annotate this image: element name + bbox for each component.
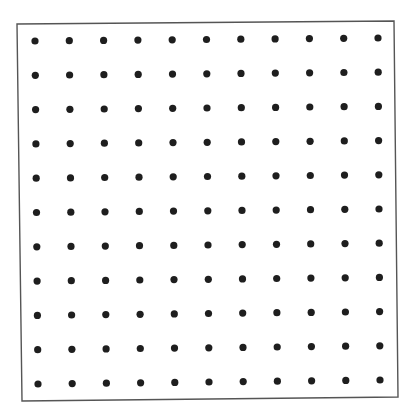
grid-dot [272,35,279,42]
grid-dot [203,70,210,77]
grid-dot [341,240,348,247]
grid-dot [103,345,110,352]
grid-dot [102,243,109,250]
grid-dot [342,308,349,315]
grid-dot [100,71,107,78]
grid-dot [306,103,313,110]
grid-dot [135,71,142,78]
grid-dot [170,242,177,249]
grid-dot [33,175,40,182]
grid-dot [238,207,245,214]
dot-grid-diagram [0,0,413,414]
grid-dot [237,70,244,77]
grid-dot [238,173,245,180]
grid-dot [137,345,144,352]
grid-dot [67,209,74,216]
grid-dot [204,241,211,248]
grid-dot [273,207,280,214]
grid-dot [375,171,382,178]
grid-dot [239,344,246,351]
grid-dot [307,172,314,179]
grid-dot [170,276,177,283]
grid-dot [69,380,76,387]
grid-dot [376,342,383,349]
grid-dot [204,207,211,214]
grid-dot [171,379,178,386]
grid-dot [102,277,109,284]
grid-dot [32,106,39,113]
grid-dot [376,274,383,281]
grid-dot [67,174,74,181]
grid-dot [308,309,315,316]
grid-dot [273,275,280,282]
grid-dot [376,308,383,315]
grid-dot [204,173,211,180]
grid-dot [34,312,41,319]
grid-dot [239,241,246,248]
grid-dot [169,36,176,43]
grid-dot [137,311,144,318]
grid-dot [100,37,107,44]
grid-dot [169,105,176,112]
grid-dot [32,72,39,79]
grid-dot [307,240,314,247]
grid-dot [170,208,177,215]
grid-dot [136,242,143,249]
grid-dot [375,137,382,144]
grid-dot [136,208,143,215]
grid-dot [273,309,280,316]
grid-dot [135,139,142,146]
grid-dot [170,173,177,180]
grid-dot [67,243,74,250]
grid-dot [102,311,109,318]
grid-dot [272,138,279,145]
grid-dot [341,137,348,144]
grid-dot [307,275,314,282]
grid-dot [33,209,40,216]
grid-dot [171,345,178,352]
grid-dot [169,71,176,78]
grid-dot [239,275,246,282]
dot-grid [31,34,383,387]
grid-dot [376,240,383,247]
grid-dot [340,35,347,42]
grid-dot [272,172,279,179]
grid-dot [169,139,176,146]
grid-dot [34,278,41,285]
grid-dot [307,206,314,213]
grid-dot [66,71,73,78]
grid-dot [306,69,313,76]
grid-dot [103,380,110,387]
grid-dot [101,208,108,215]
grid-dot [238,138,245,145]
grid-dot [274,343,281,350]
grid-dot [273,241,280,248]
grid-dot [68,346,75,353]
grid-dot [341,103,348,110]
grid-dot [205,378,212,385]
grid-dot [34,346,41,353]
grid-dot [66,106,73,113]
grid-dot [238,104,245,111]
grid-dot [67,140,74,147]
grid-dot [137,379,144,386]
grid-dot [374,34,381,41]
grid-dot [205,276,212,283]
grid-dot [203,36,210,43]
grid-dot [274,378,281,385]
grid-dot [68,311,75,318]
grid-dot [203,104,210,111]
grid-dot [239,310,246,317]
grid-dot [376,376,383,383]
grid-dot [134,37,141,44]
grid-dot [341,172,348,179]
grid-dot [205,310,212,317]
grid-dot [135,174,142,181]
grid-dot [375,69,382,76]
grid-dot [171,310,178,317]
grid-dot [101,105,108,112]
grid-dot [240,378,247,385]
grid-dot [135,105,142,112]
grid-dot [68,277,75,284]
grid-dot [34,380,41,387]
